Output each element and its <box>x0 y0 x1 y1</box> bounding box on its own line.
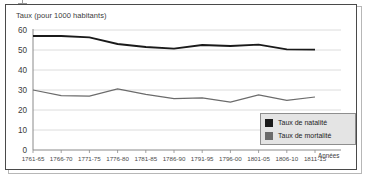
legend-item-mortalite: Taux de mortalité <box>265 129 355 142</box>
x-tick-label: 1791-95 <box>191 155 214 162</box>
series-line-mortalite <box>33 89 315 102</box>
y-axis-ticks-group: 0102030405060 <box>18 26 28 155</box>
y-tick-label: 30 <box>18 86 28 95</box>
x-tick-label: 1796-00 <box>219 155 242 162</box>
legend-label-natalite: Taux de natalité <box>278 119 327 126</box>
line-chart-svg: 0102030405060 1761-651766-701771-751776-… <box>0 0 369 178</box>
y-tick-label: 0 <box>22 146 27 155</box>
x-tick-label: 1786-90 <box>163 155 186 162</box>
chart-legend: Taux de natalité Taux de mortalité <box>260 113 356 145</box>
legend-item-natalite: Taux de natalité <box>265 116 355 129</box>
x-tick-label: 1766-70 <box>50 155 73 162</box>
legend-swatch-mortalite <box>265 132 273 140</box>
x-tick-label: 1761-65 <box>22 155 45 162</box>
x-axis-labels-group: 1761-651766-701771-751776-801781-851786-… <box>22 155 327 162</box>
legend-swatch-natalite <box>265 119 273 127</box>
x-tick-label: 1781-85 <box>134 155 157 162</box>
plot-area: 0102030405060 1761-651766-701771-751776-… <box>0 0 369 178</box>
y-tick-label: 40 <box>18 66 28 75</box>
x-axis-title: Années <box>318 152 339 159</box>
x-tick-label: 1801-05 <box>247 155 270 162</box>
y-tick-label: 10 <box>18 126 28 135</box>
y-tick-label: 20 <box>18 106 28 115</box>
x-tick-label: 1771-75 <box>78 155 101 162</box>
legend-label-mortalite: Taux de mortalité <box>278 132 331 139</box>
series-line-natalite <box>33 36 315 50</box>
x-tick-label: 1806-10 <box>275 155 298 162</box>
y-tick-label: 60 <box>18 26 28 35</box>
y-tick-label: 50 <box>18 46 28 55</box>
data-series-group <box>33 36 315 102</box>
chart-figure: Taux (pour 1000 habitants) 0102030405060… <box>0 0 369 178</box>
x-tick-label: 1776-80 <box>106 155 129 162</box>
